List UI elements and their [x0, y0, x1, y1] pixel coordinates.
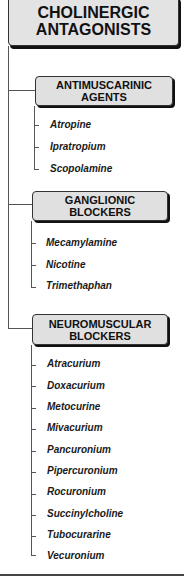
drug-item: Atropine — [50, 119, 91, 131]
branch-connector-ganglionic — [8, 204, 32, 205]
drug-tick — [31, 429, 36, 430]
drug-item: Scopolamine — [50, 163, 112, 175]
branch-connector-neuromuscular — [8, 328, 32, 329]
drug-tick — [31, 243, 36, 244]
root-title: CHOLINERGIC ANTAGONISTS — [36, 4, 151, 38]
category-title: ANTIMUSCARINIC AGENTS — [56, 79, 152, 103]
drug-tick — [31, 494, 36, 495]
drug-tick — [31, 287, 36, 288]
branch-connector-antimuscarinic — [8, 90, 35, 91]
drug-item: Doxacurium — [47, 380, 105, 392]
bottom-divider — [0, 574, 184, 576]
drug-item: Tubocurarine — [47, 529, 111, 541]
drug-tick — [31, 386, 36, 387]
category-node-neuromuscular: NEUROMUSCULAR BLOCKERS — [32, 314, 168, 345]
drug-item: Ipratropium — [50, 141, 106, 153]
drug-item: Pancuronium — [47, 444, 111, 456]
root-node-cholinergic-antagonists: CHOLINERGIC ANTAGONISTS — [8, 0, 179, 46]
drug-tick — [31, 365, 36, 366]
drug-item: Trimethaphan — [46, 280, 112, 292]
category-node-ganglionic: GANGLIONIC BLOCKERS — [32, 191, 168, 221]
drug-item: Atracurium — [47, 358, 100, 370]
drug-tick — [31, 515, 36, 516]
category-trunk-line — [34, 106, 35, 169]
drug-tick — [31, 408, 36, 409]
drug-tick — [34, 147, 39, 148]
drug-item: Mecamylamine — [46, 237, 117, 249]
category-node-antimuscarinic: ANTIMUSCARINIC AGENTS — [35, 76, 173, 106]
drug-item: Rocuronium — [47, 486, 106, 498]
drug-item: Pipercuronium — [47, 465, 118, 477]
drug-item: Metocurine — [47, 401, 100, 413]
drug-tick — [31, 472, 36, 473]
drug-item: Succinylcholine — [47, 508, 123, 520]
category-trunk-line — [31, 345, 32, 555]
category-title: NEUROMUSCULAR BLOCKERS — [49, 318, 152, 342]
category-trunk-line — [31, 221, 32, 287]
drug-item: Vecuronium — [47, 550, 104, 562]
category-title: GANGLIONIC BLOCKERS — [65, 194, 135, 218]
drug-tick — [31, 536, 36, 537]
drug-tick — [31, 265, 36, 266]
drug-tick — [31, 451, 36, 452]
drug-tick — [34, 125, 39, 126]
drug-item: Mivacurium — [47, 422, 103, 434]
root-trunk-line — [8, 46, 9, 329]
drug-tick — [31, 555, 36, 556]
drug-item: Nicotine — [46, 259, 85, 271]
drug-tick — [34, 169, 39, 170]
